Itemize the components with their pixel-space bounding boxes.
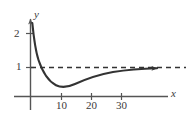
x-tick-label-20: 20 bbox=[86, 100, 97, 111]
x-tick-label-10: 10 bbox=[56, 100, 67, 111]
x-axis-label: x bbox=[171, 88, 176, 99]
graph-figure: 2 1 10 20 30 x y bbox=[0, 0, 189, 127]
function-curve bbox=[32, 23, 157, 87]
y-tick-label-2: 2 bbox=[14, 28, 20, 39]
y-axis-label: y bbox=[34, 9, 39, 20]
y-tick-label-1: 1 bbox=[16, 61, 22, 72]
x-tick-label-30: 30 bbox=[116, 100, 127, 111]
